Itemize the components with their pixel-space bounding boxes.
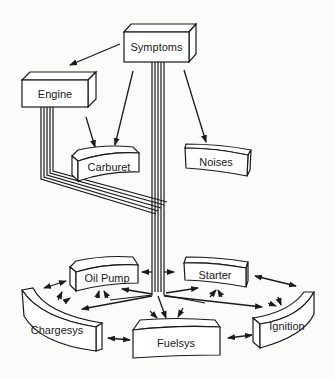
edge-bus-chargesys (82, 296, 152, 309)
node-chargesys[interactable]: Chargesys (22, 288, 102, 351)
node-oil-pump[interactable]: Oil Pump (70, 257, 138, 292)
node-symptoms[interactable]: Symptoms (124, 24, 196, 62)
node-noises-label: Noises (199, 156, 233, 168)
edge-fuelsys-ignition (228, 335, 252, 338)
node-starter[interactable]: Starter (184, 257, 248, 287)
node-chargesys-label: Chargesys (31, 324, 84, 336)
edge-symptoms-carburet (115, 71, 133, 145)
node-fuelsys[interactable]: Fuelsys (133, 319, 220, 359)
edge-symptoms-engine (70, 44, 120, 65)
node-fuelsys-label: Fuelsys (157, 337, 195, 349)
edge-symptoms-noises (184, 70, 206, 142)
node-ignition-label: Ignition (269, 320, 304, 332)
edge-bus-ignition (164, 296, 262, 307)
node-engine[interactable]: Engine (22, 72, 96, 107)
node-carburet-label: Carburet (88, 161, 131, 173)
edge-chargesys-fuelsys (108, 338, 130, 340)
node-oil-pump-label: Oil Pump (84, 272, 129, 284)
node-noises[interactable]: Noises (185, 144, 251, 176)
diagram-canvas: Symptoms Engine Carburet Noises Oil Pump… (0, 0, 335, 379)
node-starter-label: Starter (198, 269, 231, 281)
edge-engine-carburet (86, 117, 95, 147)
node-engine-label: Engine (38, 88, 72, 100)
node-ignition[interactable]: Ignition (253, 292, 314, 348)
node-symptoms-label: Symptoms (131, 41, 183, 53)
edge-bus-fuelsys (150, 296, 183, 318)
node-carburet[interactable]: Carburet (72, 146, 139, 181)
